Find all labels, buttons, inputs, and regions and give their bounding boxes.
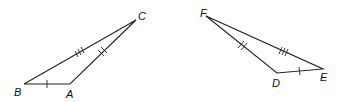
congruent-triangles-diagram: B A C F D E	[0, 0, 339, 102]
vertex-label-a: A	[65, 88, 73, 100]
triangle-def: F D E	[200, 7, 328, 89]
tick-mark-fe	[279, 47, 288, 56]
triangle-abc: B A C	[14, 10, 146, 100]
vertex-label-b: B	[14, 86, 21, 98]
vertex-label-c: C	[138, 10, 146, 22]
tick-mark-de	[299, 67, 300, 75]
vertex-label-d: D	[272, 77, 280, 89]
tick-mark-ac	[98, 47, 107, 56]
triangle-def-edges	[206, 16, 323, 73]
vertex-label-e: E	[320, 71, 328, 83]
tick-mark-bc	[75, 47, 84, 57]
